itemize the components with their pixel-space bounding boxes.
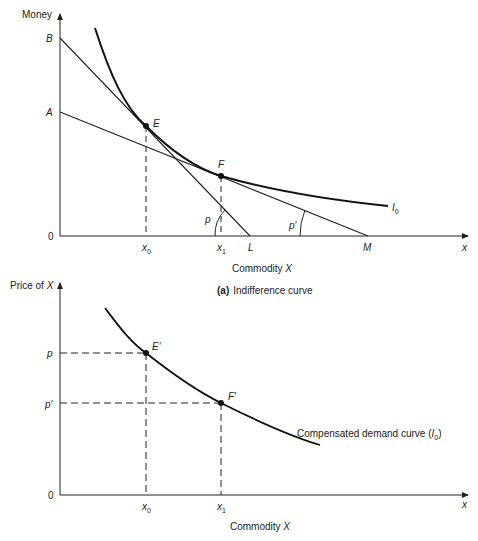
x-axis-title: Commodity X [232, 263, 292, 274]
y-axis-label: Price of X [10, 280, 54, 291]
label-B: B [46, 33, 53, 44]
label-angle-p-prime: p′ [288, 220, 298, 231]
caption: (a)Indifference curve [217, 285, 313, 296]
angle-arc-p [215, 210, 225, 236]
y-axis-label: Money [22, 9, 52, 20]
tick-x0: x0 [141, 242, 151, 255]
x-axis-end-label: x [461, 499, 468, 510]
tick-p: p [46, 348, 53, 359]
x-axis-end-label: x [461, 242, 468, 253]
label-F: F [218, 159, 225, 170]
point-F-prime [218, 400, 224, 406]
label-F-prime: F′ [228, 391, 237, 402]
origin-label: 0 [48, 490, 54, 501]
angle-arc-p-prime [300, 210, 305, 236]
label-E-prime: E′ [152, 341, 162, 352]
label-A: A [45, 107, 53, 118]
point-F [218, 173, 224, 179]
point-E-prime [143, 350, 149, 356]
origin-label: 0 [48, 231, 54, 242]
point-E [143, 123, 149, 129]
tick-x0: x0 [141, 501, 151, 514]
panel-b: Price of X p p′ E′ F′ Compensated demand… [10, 280, 468, 532]
label-E: E [153, 118, 160, 129]
indifference-curve-I0 [95, 28, 388, 206]
label-M: M [363, 242, 372, 253]
figure: Money B A E F p p′ I0 0 x0 x1 L M x Comm… [0, 0, 478, 541]
panel-a: Money B A E F p p′ I0 0 x0 x1 L M x Comm… [22, 9, 468, 296]
label-L: L [248, 242, 254, 253]
tick-x1: x1 [216, 242, 226, 255]
x-axis-title: Commodity X [230, 521, 290, 532]
label-I0: I0 [392, 202, 399, 215]
curve-label: Compensated demand curve (I0) [297, 428, 442, 441]
tick-p-prime: p′ [44, 399, 54, 410]
tick-x1: x1 [216, 501, 226, 514]
label-angle-p: p [204, 214, 211, 225]
compensated-demand-curve [105, 308, 320, 445]
